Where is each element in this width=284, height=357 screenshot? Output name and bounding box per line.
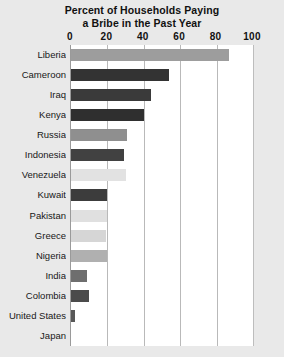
chart-title-line-2: a Bribe in the Past Year [0, 17, 284, 30]
bar-united-states [71, 310, 75, 322]
bar-row: Pakistan [0, 206, 284, 226]
category-label-india: India [0, 266, 66, 286]
bar-chart-figure: Percent of Households Paying a Bribe in … [0, 0, 284, 357]
x-tick-label-60: 60 [173, 31, 185, 42]
category-label-colombia: Colombia [0, 286, 66, 306]
category-label-cameroon: Cameroon [0, 65, 66, 85]
bar-row: Venezuela [0, 165, 284, 185]
bar-row: Kuwait [0, 185, 284, 205]
bar-row: Colombia [0, 286, 284, 306]
bar-iraq [71, 89, 151, 101]
bar-row: Greece [0, 226, 284, 246]
category-label-indonesia: Indonesia [0, 145, 66, 165]
category-label-russia: Russia [0, 125, 66, 145]
bar-rows: LiberiaCameroonIraqKenyaRussiaIndonesiaV… [0, 45, 284, 346]
bar-kuwait [71, 189, 107, 201]
bar-liberia [71, 49, 229, 61]
bar-row: Liberia [0, 45, 284, 65]
bar-row: Kenya [0, 105, 284, 125]
category-label-kenya: Kenya [0, 105, 66, 125]
bar-indonesia [71, 149, 124, 161]
category-label-pakistan: Pakistan [0, 206, 66, 226]
bar-nigeria [71, 250, 107, 262]
bar-row: India [0, 266, 284, 286]
category-label-kuwait: Kuwait [0, 185, 66, 205]
x-tick-label-0: 0 [67, 31, 73, 42]
category-label-venezuela: Venezuela [0, 165, 66, 185]
category-label-japan: Japan [0, 326, 66, 346]
category-label-iraq: Iraq [0, 85, 66, 105]
category-label-nigeria: Nigeria [0, 246, 66, 266]
bar-venezuela [71, 169, 126, 181]
bar-cameroon [71, 69, 169, 81]
x-tick-label-20: 20 [101, 31, 113, 42]
bar-row: Nigeria [0, 246, 284, 266]
bar-row: Indonesia [0, 145, 284, 165]
bar-colombia [71, 290, 89, 302]
category-label-liberia: Liberia [0, 45, 66, 65]
category-label-greece: Greece [0, 226, 66, 246]
bar-row: Iraq [0, 85, 284, 105]
bar-row: Japan [0, 326, 284, 346]
bar-india [71, 270, 87, 282]
x-axis-tick-labels: 020406080100 [0, 31, 284, 45]
x-tick-label-100: 100 [243, 31, 261, 42]
x-tick-label-40: 40 [137, 31, 149, 42]
bar-russia [71, 129, 127, 141]
bar-row: Cameroon [0, 65, 284, 85]
x-tick-label-80: 80 [210, 31, 222, 42]
bar-row: Russia [0, 125, 284, 145]
chart-title: Percent of Households Paying a Bribe in … [0, 4, 284, 30]
bar-greece [71, 230, 106, 242]
chart-title-line-1: Percent of Households Paying [0, 4, 284, 17]
category-label-united-states: United States [0, 306, 66, 326]
bar-kenya [71, 109, 144, 121]
bar-row: United States [0, 306, 284, 326]
bar-pakistan [71, 210, 107, 222]
